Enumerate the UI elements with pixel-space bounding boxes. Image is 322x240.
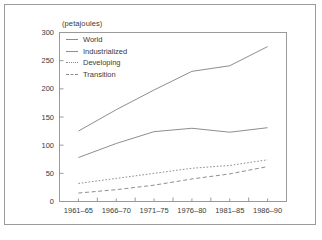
x-tick-marks (60, 198, 287, 202)
legend-swatch-transition-icon (66, 74, 78, 75)
series-line-industrialized (78, 128, 267, 158)
legend-swatch-industrialized-icon (66, 51, 78, 52)
legend-swatch-developing-icon (66, 62, 78, 63)
y-tick-label: 250 (28, 56, 54, 65)
y-tick-label: 300 (28, 28, 54, 37)
y-tick-label: 0 (28, 197, 54, 206)
y-tick-label: 50 (28, 169, 54, 178)
legend-label-transition: Transition (83, 69, 116, 81)
x-tick-label: 1986–90 (246, 206, 290, 215)
y-tick-label: 150 (28, 113, 54, 122)
legend-label-industrialized: Industrialized (83, 46, 127, 58)
y-tick-label: 200 (28, 84, 54, 93)
y-tick-label: 100 (28, 141, 54, 150)
y-tick-marks (60, 33, 64, 202)
legend-label-world: World (83, 34, 102, 46)
legend-label-developing: Developing (83, 57, 121, 69)
legend-swatch-world-icon (66, 39, 78, 40)
